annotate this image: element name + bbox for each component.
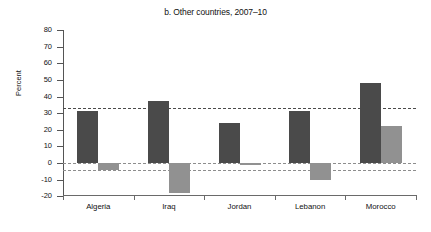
x-axis-tick <box>275 195 276 200</box>
y-axis-line <box>63 30 64 196</box>
bar-jordan-series-dark <box>219 123 240 163</box>
x-axis-line <box>63 195 416 196</box>
y-axis-tick-label: -10 <box>8 176 52 184</box>
bar-algeria-series-light <box>98 163 119 170</box>
y-axis-tick <box>57 30 63 31</box>
bar-iraq-series-light <box>169 163 190 193</box>
y-axis-tick <box>57 113 63 114</box>
y-axis-tick <box>57 130 63 131</box>
bar-iraq-series-dark <box>148 101 169 163</box>
y-axis-tick <box>57 97 63 98</box>
x-axis-tick <box>134 195 135 200</box>
x-axis-tick <box>63 195 64 200</box>
y-axis-tick-label: 0 <box>8 159 52 167</box>
bar-lebanon-series-light <box>310 163 331 180</box>
y-axis-tick <box>57 47 63 48</box>
y-axis-tick-label: 40 <box>8 93 52 101</box>
y-axis-tick-label: 20 <box>8 126 52 134</box>
y-axis-tick-label: 70 <box>8 43 52 51</box>
x-axis-tick <box>345 195 346 200</box>
x-axis-label-iraq: Iraq <box>134 202 205 211</box>
bar-lebanon-series-dark <box>289 111 310 163</box>
x-axis-tick <box>416 195 417 200</box>
chart-figure: b. Other countries, 2007–10 Percent 8070… <box>0 0 431 232</box>
y-axis-tick <box>57 63 63 64</box>
bar-morocco-series-dark <box>360 83 381 163</box>
y-axis-tick-label: 30 <box>8 109 52 117</box>
y-axis-tick-label: 80 <box>8 26 52 34</box>
y-axis-tick <box>57 180 63 181</box>
chart-title: b. Other countries, 2007–10 <box>0 7 431 17</box>
y-axis-tick <box>57 80 63 81</box>
bar-morocco-series-light <box>381 126 402 163</box>
x-axis-label-morocco: Morocco <box>345 202 416 211</box>
lower-average-line <box>63 170 416 171</box>
y-axis-tick-label: 60 <box>8 59 52 67</box>
x-axis-label-jordan: Jordan <box>204 202 275 211</box>
x-axis-label-algeria: Algeria <box>63 202 134 211</box>
x-axis-label-lebanon: Lebanon <box>275 202 346 211</box>
x-axis-tick <box>204 195 205 200</box>
y-axis-tick-label: 10 <box>8 142 52 150</box>
bar-algeria-series-dark <box>77 111 98 163</box>
y-axis-tick-label: -20 <box>8 192 52 200</box>
bar-jordan-series-light <box>240 163 261 165</box>
y-axis-tick <box>57 146 63 147</box>
y-axis-tick-label: 50 <box>8 76 52 84</box>
